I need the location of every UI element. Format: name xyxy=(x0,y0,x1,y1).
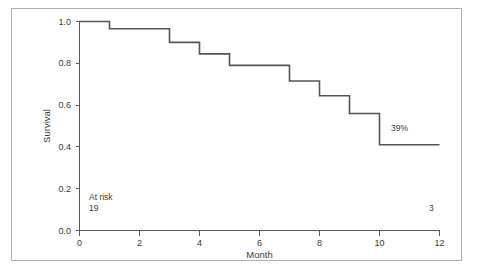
x-tick-label-5: 10 xyxy=(374,238,384,248)
x-tick-label-4: 8 xyxy=(317,238,322,248)
at-risk-count-end: 3 xyxy=(429,203,434,213)
x-tick-label-1: 2 xyxy=(137,238,142,248)
y-tick-label-2: 0.4 xyxy=(58,142,71,152)
x-tick-label-0: 0 xyxy=(77,238,82,248)
y-tick-label-0: 0.0 xyxy=(58,226,71,236)
x-tick-label-2: 4 xyxy=(197,238,202,248)
x-tick-label-3: 6 xyxy=(257,238,262,248)
survival-chart-figure: 1.0 0.8 0.6 0.4 0.2 0.0 0 2 4 6 8 10 12 … xyxy=(0,0,477,275)
y-tick-label-3: 0.6 xyxy=(58,100,71,110)
at-risk-title-label: At risk xyxy=(89,192,113,202)
survival-step-curve xyxy=(80,22,440,145)
y-axis-ticks xyxy=(76,22,80,231)
x-axis-ticks xyxy=(80,231,440,236)
at-risk-count-start: 19 xyxy=(89,203,99,213)
y-tick-label-1: 0.2 xyxy=(58,184,71,194)
y-tick-label-5: 1.0 xyxy=(58,17,71,27)
x-tick-label-6: 12 xyxy=(434,238,444,248)
x-axis-title: Month xyxy=(246,249,272,260)
y-axis-title: Survival xyxy=(41,109,52,143)
kaplan-meier-plot: 1.0 0.8 0.6 0.4 0.2 0.0 0 2 4 6 8 10 12 … xyxy=(0,0,477,275)
final-survival-label: 39% xyxy=(391,123,408,133)
y-tick-label-4: 0.8 xyxy=(58,58,71,68)
